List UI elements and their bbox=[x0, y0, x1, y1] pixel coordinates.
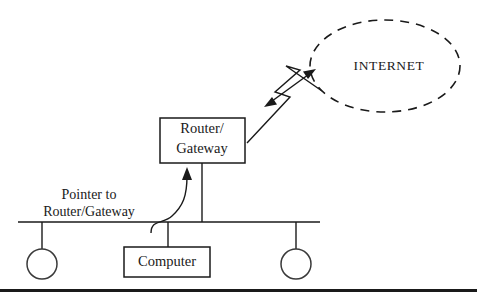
computer-label: Computer bbox=[138, 253, 196, 269]
router-gateway-label-line2: Gateway bbox=[176, 140, 228, 156]
wan-double-arrow-line bbox=[268, 72, 312, 104]
terminal-left-node bbox=[27, 249, 57, 279]
network-diagram: INTERNET Router/ Gateway Computer bbox=[0, 0, 477, 301]
pointer-arrow-head bbox=[182, 167, 192, 180]
lightning-bolt-connector bbox=[247, 66, 322, 143]
bottom-divider-rule bbox=[0, 289, 477, 292]
diagram-canvas: INTERNET Router/ Gateway Computer bbox=[0, 0, 477, 301]
pointer-note-line1: Pointer to bbox=[62, 187, 117, 202]
pointer-note-line2: Router/Gateway bbox=[43, 204, 135, 219]
router-gateway-label-line1: Router/ bbox=[180, 120, 224, 136]
terminal-right-node bbox=[281, 249, 311, 279]
internet-cloud-label: INTERNET bbox=[354, 58, 425, 73]
pointer-curved-arrow-line bbox=[151, 176, 187, 233]
